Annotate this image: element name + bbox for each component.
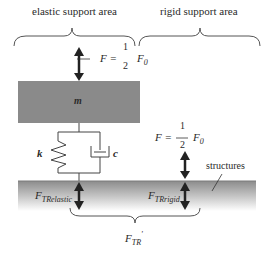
applied-force-lhs: F = [100,52,117,64]
mass-label: m [74,95,82,106]
rigid-area-brace [139,28,260,46]
applied-force-numerator: 1 [123,41,128,52]
rigid-applied-force-arrow [180,151,190,179]
structures-label: structures [206,160,245,171]
spring-label: k [37,147,43,159]
diagram-canvas [0,0,273,258]
damper-label: c [113,147,118,159]
applied-force-arrow [74,47,84,81]
spring-icon [51,141,66,168]
elastic-area-brace [14,28,135,46]
applied-force-denominator: 2 [123,60,128,71]
rigid-force-numerator: 1 [180,120,185,131]
rigid-force-lhs: F = [155,131,172,143]
transmitted-elastic-label: FTRelastic [35,189,72,204]
rigid-force-rhs: F0 [193,131,204,146]
transmitted-total-label: FTR' [125,230,143,247]
applied-force-rhs: F0 [137,52,148,67]
transmitted-rigid-label: FTRrigid [148,189,180,204]
spring-damper [51,123,109,181]
rigid-force-denominator: 2 [180,139,185,150]
